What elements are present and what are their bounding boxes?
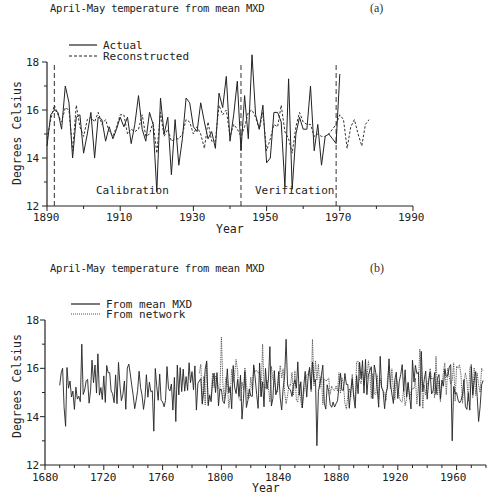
panel-a-xtick-1950: 1950 <box>252 211 279 224</box>
panel-b-y-ticks <box>40 320 45 465</box>
panel-a-y-axis-label: Degrees Celsius <box>10 81 24 185</box>
panel-b-xtick-1800: 1800 <box>207 471 234 484</box>
panel-b-y-axis-label: Degrees Celsius <box>10 334 24 438</box>
panel-b-x-axis-label: Year <box>252 481 280 495</box>
panel-a-xtick-1970: 1970 <box>325 211 352 224</box>
panel-b-ytick-18: 18 <box>26 314 39 327</box>
panel-a-calibration-label: Calibration <box>96 184 169 197</box>
panel-b-xtick-1960: 1960 <box>440 471 467 484</box>
panel-a-ytick-14: 14 <box>26 152 40 165</box>
panel-a-ytick-18: 18 <box>26 56 39 69</box>
panel-b-chart: 12 14 16 18 1680 1720 1760 1800 1840 188… <box>10 298 486 495</box>
panel-b-xtick-1920: 1920 <box>382 471 409 484</box>
legend-reconstructed-label: Reconstructed <box>103 50 189 63</box>
panel-a-x-ticks <box>47 206 413 211</box>
panel-a-y-ticks <box>42 62 47 206</box>
panel-b-ytick-16: 16 <box>26 362 39 375</box>
panel-a-xtick-1890: 1890 <box>33 211 60 224</box>
panel-a-xtick-1910: 1910 <box>106 211 133 224</box>
panel-a-xtick-1930: 1930 <box>179 211 206 224</box>
legend-network-label: From network <box>106 308 186 321</box>
panel-b-xtick-1760: 1760 <box>148 471 175 484</box>
panel-a-verification-label: Verification <box>255 184 334 197</box>
panel-b-ytick-14: 14 <box>26 411 40 424</box>
panel-b-xtick-1720: 1720 <box>90 471 117 484</box>
panel-a-ytick-16: 16 <box>26 104 39 117</box>
series-actual-line <box>47 55 340 192</box>
panel-b-xtick-1680: 1680 <box>32 471 59 484</box>
panel-b-xtick-1880: 1880 <box>323 471 350 484</box>
panel-a-x-axis-label: Year <box>216 222 244 236</box>
panel-a-chart: 12 14 16 18 1890 1910 1930 1950 1970 199… <box>10 39 425 236</box>
panel-b-x-ticks <box>45 465 486 470</box>
panel-a-xtick-1990: 1990 <box>398 211 425 224</box>
